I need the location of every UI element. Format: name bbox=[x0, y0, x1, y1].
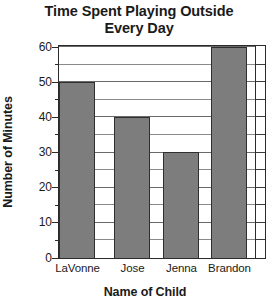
right-tick-55 bbox=[256, 64, 265, 65]
y-tick-label-10: 10 bbox=[26, 216, 52, 228]
y-tick-label-20: 20 bbox=[26, 181, 52, 193]
right-tick-20 bbox=[256, 187, 265, 188]
y-axis-title-container: Number of Minutes bbox=[0, 46, 16, 258]
y-tick-label-60: 60 bbox=[26, 41, 52, 53]
bar-brandon bbox=[211, 47, 247, 258]
x-tick-label-brandon: Brandon bbox=[200, 261, 260, 275]
right-tick-15 bbox=[256, 204, 265, 205]
x-axis-title: Name of Child bbox=[40, 285, 250, 299]
right-tick-25 bbox=[256, 169, 265, 170]
plot-area bbox=[58, 45, 266, 259]
bar-jenna bbox=[163, 152, 199, 258]
right-tick-40 bbox=[256, 116, 265, 117]
y-tick-label-30: 30 bbox=[26, 146, 52, 158]
y-axis-title: Number of Minutes bbox=[1, 96, 15, 208]
y-tick-label-40: 40 bbox=[26, 111, 52, 123]
x-tick-label-lavonne: LaVonne bbox=[48, 261, 108, 275]
right-tick-10 bbox=[256, 222, 265, 223]
right-tick-35 bbox=[256, 134, 265, 135]
right-tick-30 bbox=[256, 152, 265, 153]
y-tick-label-50: 50 bbox=[26, 76, 52, 88]
bar-jose bbox=[114, 117, 150, 258]
bar-chart: Time Spent Playing Outside Every Day Num… bbox=[0, 0, 274, 308]
right-tick-50 bbox=[256, 81, 265, 82]
bar-lavonne bbox=[59, 82, 95, 258]
right-tick-5 bbox=[256, 239, 265, 240]
right-tick-45 bbox=[256, 99, 265, 100]
right-axis-gutter bbox=[255, 46, 265, 258]
x-axis-tick-labels: LaVonneJoseJennaBrandon bbox=[58, 261, 266, 277]
